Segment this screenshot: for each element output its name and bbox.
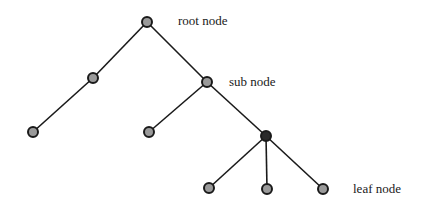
root-node bbox=[142, 17, 152, 27]
edge-root-leftsub bbox=[93, 22, 147, 78]
leaf-node-label: leaf node bbox=[353, 181, 401, 197]
sub-node-label: sub node bbox=[229, 74, 276, 90]
leaf-node-2 bbox=[262, 184, 272, 194]
nodes bbox=[28, 17, 328, 194]
tree-diagram bbox=[0, 0, 437, 209]
inner-node bbox=[261, 131, 271, 141]
edge-inner-leaf1 bbox=[209, 136, 266, 188]
edge-leftsub-leaf bbox=[33, 78, 93, 132]
edge-inner-leaf2 bbox=[266, 136, 267, 189]
root-node-label: root node bbox=[178, 13, 227, 29]
sub-node bbox=[202, 77, 212, 87]
leaf-node-1 bbox=[204, 183, 214, 193]
edges bbox=[33, 22, 323, 189]
leaf-node-3 bbox=[318, 184, 328, 194]
edge-root-sub bbox=[147, 22, 207, 82]
edge-sub-midleaf bbox=[149, 82, 207, 132]
edge-sub-inner bbox=[207, 82, 266, 136]
edge-inner-leaf3 bbox=[266, 136, 323, 189]
mid-leaf-node bbox=[144, 127, 154, 137]
left-leaf-node bbox=[28, 127, 38, 137]
left-sub-node bbox=[88, 73, 98, 83]
